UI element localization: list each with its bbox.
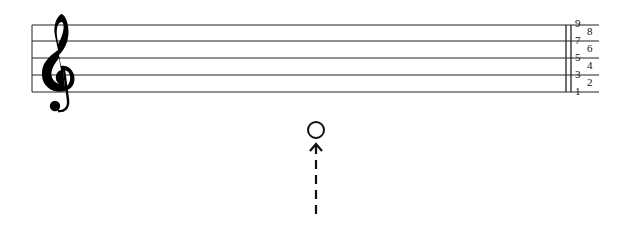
note-marker bbox=[308, 122, 324, 138]
open-circle-icon bbox=[308, 122, 324, 138]
position-label: 3 bbox=[575, 69, 581, 80]
staff-lines bbox=[32, 25, 599, 92]
treble-clef-icon bbox=[42, 14, 75, 111]
position-label: 4 bbox=[587, 60, 593, 71]
dashed-arrow-up-icon bbox=[310, 144, 322, 218]
position-label: 5 bbox=[575, 52, 581, 63]
position-label: 7 bbox=[575, 35, 581, 46]
position-label: 8 bbox=[587, 26, 593, 37]
position-label: 2 bbox=[587, 77, 593, 88]
music-staff-diagram bbox=[0, 0, 628, 227]
position-label: 9 bbox=[575, 18, 581, 29]
position-label: 6 bbox=[587, 43, 593, 54]
position-label: 1 bbox=[575, 86, 581, 97]
